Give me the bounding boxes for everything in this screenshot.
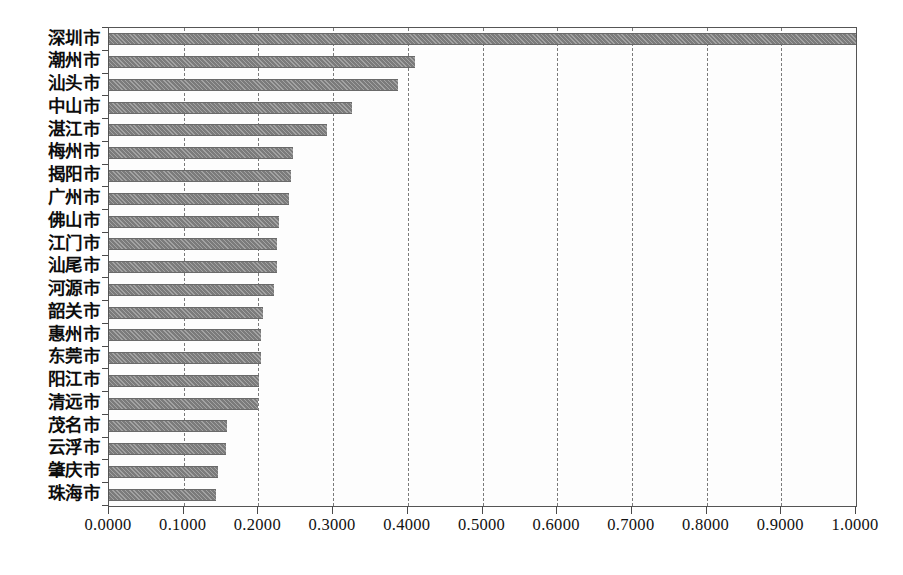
- bar-row: [109, 74, 856, 97]
- x-axis-tick-marks: [108, 506, 856, 514]
- bar-row: [109, 483, 856, 506]
- y-axis-label: 阳江市: [0, 368, 104, 391]
- bar: [109, 33, 856, 45]
- bar-series: [109, 28, 856, 506]
- x-axis-label: 0.8000: [682, 516, 729, 534]
- bar: [109, 56, 415, 68]
- y-axis-label: 肇庆市: [0, 460, 104, 483]
- x-axis-tick: [407, 506, 408, 514]
- bar: [109, 102, 352, 114]
- bar-row: [109, 187, 856, 210]
- bar-row: [109, 210, 856, 233]
- bar-row: [109, 369, 856, 392]
- y-axis-label: 江门市: [0, 232, 104, 255]
- y-axis-label: 惠州市: [0, 323, 104, 346]
- y-axis-label: 湛江市: [0, 118, 104, 141]
- bar: [109, 284, 274, 296]
- x-axis-tick: [706, 506, 707, 514]
- x-axis-tick: [257, 506, 258, 514]
- x-axis-label: 0.6000: [533, 516, 580, 534]
- bar: [109, 420, 227, 432]
- y-axis-label: 佛山市: [0, 209, 104, 232]
- y-axis-label: 揭阳市: [0, 164, 104, 187]
- x-axis-tick: [631, 506, 632, 514]
- x-axis-tick: [556, 506, 557, 514]
- bar-row: [109, 415, 856, 438]
- bar-row: [109, 392, 856, 415]
- y-axis-label: 广州市: [0, 186, 104, 209]
- bar-row: [109, 142, 856, 165]
- bar: [109, 443, 226, 455]
- bar-row: [109, 324, 856, 347]
- x-axis-tick: [183, 506, 184, 514]
- y-axis-label: 潮州市: [0, 50, 104, 73]
- x-axis-label: 0.2000: [234, 516, 281, 534]
- y-axis-label: 梅州市: [0, 141, 104, 164]
- bar-row: [109, 28, 856, 51]
- bar-row: [109, 301, 856, 324]
- bar-row: [109, 51, 856, 74]
- x-axis-label: 0.9000: [757, 516, 804, 534]
- bar: [109, 352, 261, 364]
- bar-row: [109, 278, 856, 301]
- x-axis-label: 0.7000: [607, 516, 654, 534]
- bar-row: [109, 96, 856, 119]
- bar-row: [109, 256, 856, 279]
- x-axis-label: 0.3000: [309, 516, 356, 534]
- bar-chart: 深圳市潮州市汕头市中山市湛江市梅州市揭阳市广州市佛山市江门市汕尾市河源市韶关市惠…: [0, 0, 903, 575]
- bar-row: [109, 165, 856, 188]
- bar: [109, 79, 398, 91]
- x-axis-tick: [482, 506, 483, 514]
- x-axis-tick: [855, 506, 856, 514]
- bar-row: [109, 233, 856, 256]
- x-axis-tick: [332, 506, 333, 514]
- bar-row: [109, 119, 856, 142]
- bar: [109, 216, 279, 228]
- bar: [109, 124, 327, 136]
- bar: [109, 329, 261, 341]
- y-axis-category-labels: 深圳市潮州市汕头市中山市湛江市梅州市揭阳市广州市佛山市江门市汕尾市河源市韶关市惠…: [0, 27, 104, 505]
- y-axis-label: 珠海市: [0, 482, 104, 505]
- y-axis-label: 韶关市: [0, 300, 104, 323]
- y-axis-label: 茂名市: [0, 414, 104, 437]
- x-axis-label: 1.0000: [831, 516, 878, 534]
- y-axis-label: 中山市: [0, 95, 104, 118]
- x-axis-label: 0.0000: [84, 516, 131, 534]
- bar: [109, 375, 259, 387]
- y-axis-label: 清远市: [0, 391, 104, 414]
- bar: [109, 466, 218, 478]
- x-axis-tick: [780, 506, 781, 514]
- y-axis-label: 深圳市: [0, 27, 104, 50]
- y-axis-label: 汕尾市: [0, 255, 104, 278]
- bar: [109, 193, 289, 205]
- bar: [109, 307, 263, 319]
- bar: [109, 489, 216, 501]
- bar-row: [109, 461, 856, 484]
- bar-row: [109, 438, 856, 461]
- bar: [109, 170, 291, 182]
- x-axis-label: 0.5000: [458, 516, 505, 534]
- y-axis-label: 东莞市: [0, 346, 104, 369]
- y-axis-label: 云浮市: [0, 437, 104, 460]
- x-axis-label: 0.1000: [159, 516, 206, 534]
- bar-row: [109, 347, 856, 370]
- x-axis-tick-labels: 0.00000.10000.20000.30000.40000.50000.60…: [0, 516, 903, 546]
- y-axis-label: 河源市: [0, 277, 104, 300]
- y-axis-label: 汕头市: [0, 73, 104, 96]
- x-axis-tick: [108, 506, 109, 514]
- bar: [109, 398, 258, 410]
- x-axis-label: 0.4000: [383, 516, 430, 534]
- bar: [109, 147, 293, 159]
- bar: [109, 238, 277, 250]
- bar: [109, 261, 277, 273]
- plot-area: [108, 27, 857, 507]
